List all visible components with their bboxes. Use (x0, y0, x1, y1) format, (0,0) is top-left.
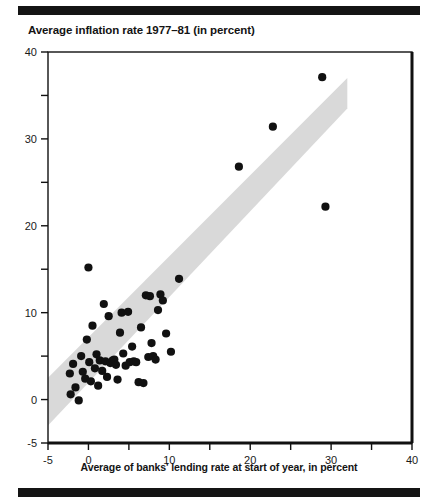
data-point (94, 382, 102, 390)
data-point (175, 275, 183, 283)
data-point (124, 308, 132, 316)
data-point (162, 329, 170, 337)
data-point (146, 292, 154, 300)
y-tick-label: 30 (25, 133, 37, 145)
data-point (100, 300, 108, 308)
data-point (132, 358, 140, 366)
data-point (88, 322, 96, 330)
data-point (235, 163, 243, 171)
data-point (87, 377, 95, 385)
data-point (321, 203, 329, 211)
scatter-plot: -5010203040-5010203040 (0, 0, 438, 503)
data-point (318, 73, 326, 81)
data-point (116, 329, 124, 337)
data-point (137, 323, 145, 331)
plot-canvas: -5010203040-5010203040 (0, 0, 438, 503)
x-axis-label: Average of banks' lending rate at start … (0, 461, 438, 473)
data-point (84, 263, 92, 271)
trend-band (48, 78, 347, 426)
y-tick-label: -5 (27, 437, 37, 449)
data-point (147, 339, 155, 347)
data-point (91, 364, 99, 372)
data-point (113, 375, 121, 383)
data-point (159, 296, 167, 304)
data-point (119, 349, 127, 357)
data-point (69, 360, 77, 368)
data-point (79, 368, 87, 376)
y-tick-label: 20 (25, 220, 37, 232)
data-point (128, 342, 136, 350)
data-point (269, 123, 277, 131)
data-point (103, 373, 111, 381)
data-point (112, 361, 120, 369)
data-point (167, 348, 175, 356)
y-tick-label: 0 (31, 394, 37, 406)
y-tick-label: 10 (25, 307, 37, 319)
data-point (154, 306, 162, 314)
data-point (77, 352, 85, 360)
plot-frame (48, 52, 412, 443)
data-point (71, 383, 79, 391)
data-point (83, 336, 91, 344)
data-point (67, 390, 75, 398)
y-tick-label: 40 (25, 46, 37, 58)
data-point (75, 396, 83, 404)
data-point (85, 358, 93, 366)
data-point (151, 355, 159, 363)
data-point (139, 379, 147, 387)
data-point (66, 369, 74, 377)
bottom-rule (18, 488, 420, 497)
data-point (105, 312, 113, 320)
